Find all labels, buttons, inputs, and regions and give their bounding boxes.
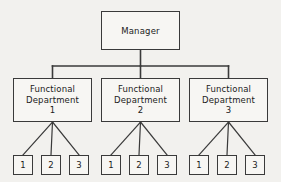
department-1-unit-2-label: 2 xyxy=(48,160,54,170)
connector-department-2-to-unit-2 xyxy=(139,122,141,155)
department-2-unit-3-label: 3 xyxy=(164,160,170,170)
department-2-unit-1-label: 1 xyxy=(108,160,114,170)
department-3-unit-2-label: 2 xyxy=(224,160,230,170)
department-3-line1: Functional xyxy=(206,84,251,95)
node-department-1[interactable]: Functional Department 1 xyxy=(13,78,92,122)
connector-department-3-to-unit-1 xyxy=(199,122,229,155)
department-1-line3: 1 xyxy=(50,105,56,116)
department-3-line3: 3 xyxy=(226,105,232,116)
node-department-3-unit-1[interactable]: 1 xyxy=(189,155,209,175)
node-department-3-unit-2[interactable]: 2 xyxy=(217,155,237,175)
connector-department-3-to-unit-2 xyxy=(227,122,229,155)
connector-department-2-to-unit-1 xyxy=(111,122,141,155)
node-manager-label: Manager xyxy=(121,26,160,36)
department-2-line1: Functional xyxy=(118,84,163,95)
node-department-2-unit-3[interactable]: 3 xyxy=(157,155,177,175)
node-department-1-unit-1[interactable]: 1 xyxy=(13,155,33,175)
department-2-line2: Department xyxy=(114,95,167,106)
connector-department-3-to-unit-3 xyxy=(229,122,256,155)
node-department-2-unit-2[interactable]: 2 xyxy=(129,155,149,175)
node-department-1-unit-2[interactable]: 2 xyxy=(41,155,61,175)
department-1-unit-3-label: 3 xyxy=(76,160,82,170)
node-manager[interactable]: Manager xyxy=(101,11,180,50)
node-department-2-unit-1[interactable]: 1 xyxy=(101,155,121,175)
node-department-1-unit-3[interactable]: 3 xyxy=(69,155,89,175)
department-1-line1: Functional xyxy=(30,84,75,95)
connector-department-1-to-unit-3 xyxy=(53,122,80,155)
org-chart-diagram: Manager Functional Department 1 Function… xyxy=(0,0,281,182)
department-1-line2: Department xyxy=(26,95,79,106)
connector-department-1-to-unit-1 xyxy=(23,122,53,155)
department-2-unit-2-label: 2 xyxy=(136,160,142,170)
department-3-unit-3-label: 3 xyxy=(252,160,258,170)
node-department-3-unit-3[interactable]: 3 xyxy=(245,155,265,175)
connector-department-2-to-unit-3 xyxy=(141,122,168,155)
node-department-2[interactable]: Functional Department 2 xyxy=(101,78,180,122)
department-2-line3: 2 xyxy=(138,105,144,116)
department-1-unit-1-label: 1 xyxy=(20,160,26,170)
department-3-unit-1-label: 1 xyxy=(196,160,202,170)
node-department-3[interactable]: Functional Department 3 xyxy=(189,78,268,122)
department-3-line2: Department xyxy=(202,95,255,106)
connector-department-1-to-unit-2 xyxy=(51,122,53,155)
